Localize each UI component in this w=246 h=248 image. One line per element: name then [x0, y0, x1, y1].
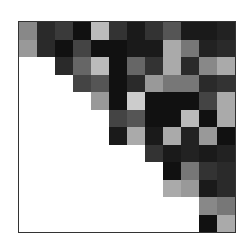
empty-cell	[109, 215, 127, 233]
empty-cell	[55, 197, 73, 215]
empty-cell	[19, 162, 37, 180]
empty-cell	[19, 145, 37, 163]
heatmap-frame	[18, 21, 236, 233]
heatmap-cell	[163, 180, 181, 198]
heatmap-cell	[145, 92, 163, 110]
heatmap-cell	[163, 162, 181, 180]
heatmap-cell	[163, 22, 181, 40]
heatmap-cell	[91, 57, 109, 75]
heatmap-cell	[73, 40, 91, 58]
heatmap-cell	[55, 57, 73, 75]
heatmap-cell	[163, 40, 181, 58]
heatmap-cell	[145, 75, 163, 93]
empty-cell	[163, 215, 181, 233]
heatmap-cell	[109, 57, 127, 75]
empty-cell	[73, 162, 91, 180]
heatmap-cell	[109, 40, 127, 58]
empty-cell	[145, 180, 163, 198]
empty-cell	[73, 110, 91, 128]
heatmap-cell	[145, 22, 163, 40]
empty-cell	[37, 57, 55, 75]
empty-cell	[19, 215, 37, 233]
heatmap-cell	[181, 40, 199, 58]
empty-cell	[91, 215, 109, 233]
empty-cell	[37, 162, 55, 180]
heatmap-cell	[163, 127, 181, 145]
empty-cell	[109, 197, 127, 215]
empty-cell	[127, 162, 145, 180]
empty-cell	[37, 92, 55, 110]
heatmap-cell	[19, 22, 37, 40]
heatmap-grid	[19, 22, 235, 232]
heatmap-cell	[127, 22, 145, 40]
empty-cell	[19, 197, 37, 215]
heatmap-cell	[217, 40, 235, 58]
empty-cell	[19, 92, 37, 110]
heatmap-cell	[181, 145, 199, 163]
empty-cell	[91, 197, 109, 215]
heatmap-cell	[73, 57, 91, 75]
heatmap-cell	[199, 57, 217, 75]
heatmap-cell	[199, 145, 217, 163]
heatmap-cell	[217, 162, 235, 180]
empty-cell	[37, 127, 55, 145]
empty-cell	[91, 127, 109, 145]
empty-cell	[55, 215, 73, 233]
empty-cell	[73, 197, 91, 215]
heatmap-cell	[109, 92, 127, 110]
empty-cell	[19, 75, 37, 93]
heatmap-cell	[163, 57, 181, 75]
heatmap-cell	[109, 75, 127, 93]
empty-cell	[73, 92, 91, 110]
empty-cell	[37, 110, 55, 128]
heatmap-cell	[181, 162, 199, 180]
heatmap-cell	[163, 145, 181, 163]
empty-cell	[91, 180, 109, 198]
heatmap-cell	[217, 57, 235, 75]
heatmap-cell	[181, 92, 199, 110]
heatmap-cell	[145, 127, 163, 145]
heatmap-cell	[181, 110, 199, 128]
heatmap-cell	[91, 40, 109, 58]
heatmap-cell	[199, 75, 217, 93]
heatmap-cell	[217, 92, 235, 110]
empty-cell	[145, 162, 163, 180]
heatmap-cell	[19, 40, 37, 58]
heatmap-cell	[73, 22, 91, 40]
empty-cell	[55, 145, 73, 163]
empty-cell	[73, 180, 91, 198]
heatmap-cell	[109, 22, 127, 40]
empty-cell	[127, 215, 145, 233]
empty-cell	[37, 197, 55, 215]
heatmap-cell	[199, 215, 217, 233]
heatmap-cell	[73, 75, 91, 93]
heatmap-cell	[109, 110, 127, 128]
empty-cell	[73, 127, 91, 145]
heatmap-cell	[199, 127, 217, 145]
empty-cell	[109, 180, 127, 198]
heatmap-cell	[217, 215, 235, 233]
empty-cell	[19, 57, 37, 75]
empty-cell	[145, 197, 163, 215]
heatmap-cell	[91, 75, 109, 93]
heatmap-cell	[91, 22, 109, 40]
heatmap-cell	[127, 92, 145, 110]
empty-cell	[37, 215, 55, 233]
heatmap-cell	[127, 40, 145, 58]
empty-cell	[19, 180, 37, 198]
empty-cell	[91, 145, 109, 163]
empty-cell	[145, 215, 163, 233]
heatmap-cell	[91, 92, 109, 110]
empty-cell	[37, 75, 55, 93]
empty-cell	[19, 127, 37, 145]
empty-cell	[37, 180, 55, 198]
heatmap-cell	[199, 40, 217, 58]
heatmap-cell	[217, 127, 235, 145]
heatmap-cell	[163, 92, 181, 110]
empty-cell	[127, 145, 145, 163]
empty-cell	[109, 162, 127, 180]
empty-cell	[91, 110, 109, 128]
heatmap-cell	[199, 22, 217, 40]
empty-cell	[19, 110, 37, 128]
heatmap-cell	[127, 110, 145, 128]
